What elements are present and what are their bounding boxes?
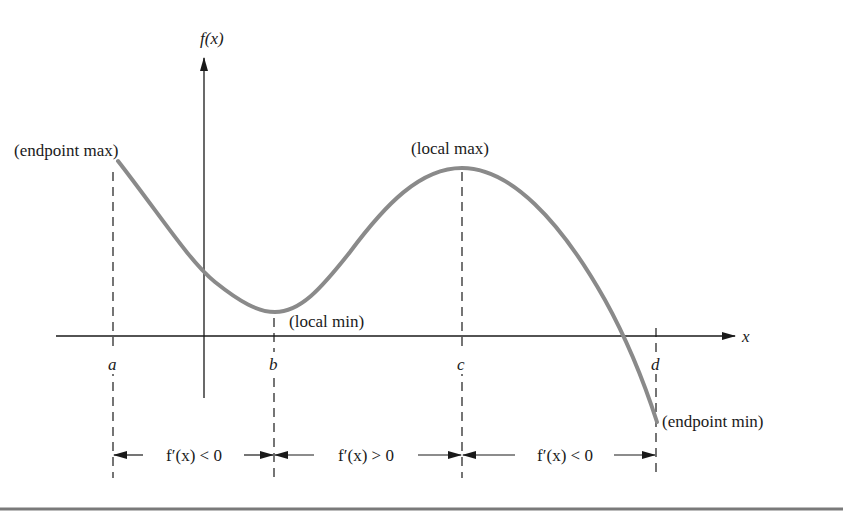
interval-label-bc: f′(x) > 0 xyxy=(338,446,394,465)
y-axis-label: f(x) xyxy=(200,29,224,48)
dashed-guides xyxy=(113,172,656,478)
interval-label-ab: f′(x) < 0 xyxy=(166,446,222,465)
function-curve xyxy=(118,161,657,422)
tick-label-a: a xyxy=(108,355,117,374)
tick-label-b: b xyxy=(269,355,278,374)
x-axis-label: x xyxy=(741,327,750,346)
tick-label-d: d xyxy=(651,355,660,374)
interval-label-cd: f′(x) < 0 xyxy=(537,446,593,465)
diagram-canvas: f(x) x a b c d (endpoint max) (local max… xyxy=(0,0,843,515)
label-endpoint-max: (endpoint max) xyxy=(14,141,118,160)
label-local-min: (local min) xyxy=(289,312,364,331)
label-endpoint-min: (endpoint min) xyxy=(662,412,764,431)
label-local-max: (local max) xyxy=(411,139,489,158)
tick-label-c: c xyxy=(457,355,465,374)
